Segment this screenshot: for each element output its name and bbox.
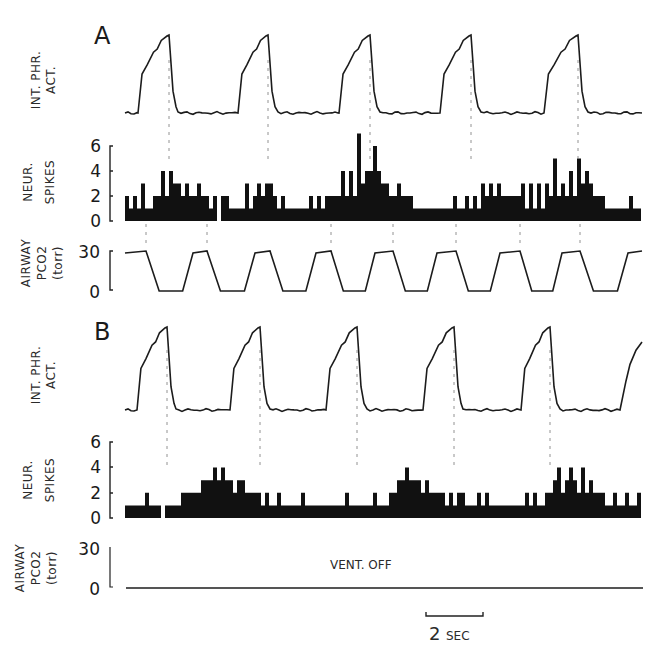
time-scale-bar: 2 SEC [426, 612, 483, 644]
panel-a-phrenic-ylabel: INT. PHR. ACT. [29, 51, 58, 110]
histogram-bars [125, 134, 641, 222]
ylabel-line: INT. PHR. [29, 346, 43, 405]
ylabel-line: ACT. [44, 66, 58, 94]
ylabel-line: NEUR. [21, 460, 35, 500]
tick-label: 2 [90, 186, 101, 206]
panel-a-label: A [94, 22, 111, 50]
tick-label: 0 [90, 508, 101, 528]
panel-a-pco2-ylabel: AIRWAY PCO2 (torr) [19, 239, 65, 288]
scale-bar-unit: SEC [446, 629, 470, 643]
tick-label: 4 [90, 457, 101, 477]
panel-b-phrenic-ylabel: INT. PHR. ACT. [29, 346, 58, 405]
ylabel-line: AIRWAY [13, 544, 27, 593]
pco2-trace-a [125, 251, 642, 291]
scale-bar-value: 2 [429, 623, 440, 644]
panel-a-spikes-ylabel: NEUR. SPIKES [21, 160, 57, 204]
phrenic-trace-a [125, 35, 642, 114]
panel-b-spikes-axis: 6 4 2 0 [90, 432, 113, 528]
spike-histogram-b [125, 468, 641, 518]
tick-label: 6 [90, 136, 101, 156]
histogram-bars [125, 468, 641, 518]
ylabel-line: ACT. [44, 361, 58, 389]
tick-label: 0 [90, 211, 101, 231]
tick-label: 2 [90, 483, 101, 503]
tick-label: 0 [89, 282, 100, 302]
panel-b-pco2-ylabel: AIRWAY PCO2 (torr) [13, 544, 59, 593]
ylabel-line: INT. PHR. [29, 51, 43, 110]
spike-histogram-a [125, 134, 641, 222]
phrenic-trace-b [125, 327, 642, 411]
panel-a-spikes-axis: 6 4 2 0 [90, 136, 113, 231]
ylabel-line: (torr) [51, 246, 65, 280]
ylabel-line: AIRWAY [19, 239, 33, 288]
tick-label: 30 [78, 539, 100, 559]
panel-a-pco2-axis: 30 0 [78, 242, 113, 302]
panel-b-spikes-ylabel: NEUR. SPIKES [21, 458, 57, 502]
tick-label: 4 [90, 161, 101, 181]
tick-label: 30 [78, 242, 100, 262]
ylabel-line: SPIKES [43, 458, 57, 502]
panel-b-label: B [94, 318, 110, 346]
figure: A INT. PHR. ACT. NEUR. SPIKES AIRWAY PCO… [0, 0, 659, 659]
ylabel-line: SPIKES [43, 160, 57, 204]
vent-off-annotation: VENT. OFF [330, 558, 392, 572]
tick-label: 6 [90, 432, 101, 452]
panel-b: B INT. PHR. ACT. NEUR. SPIKES AIRWAY PCO… [13, 318, 643, 599]
ylabel-line: PCO2 [35, 246, 49, 281]
ylabel-line: (torr) [45, 551, 59, 585]
panel-a: A INT. PHR. ACT. NEUR. SPIKES AIRWAY PCO… [19, 22, 642, 302]
ylabel-line: PCO2 [29, 551, 43, 586]
panel-b-pco2-axis: 30 0 [78, 539, 113, 599]
alignment-dashes-b [167, 350, 550, 465]
tick-label: 0 [89, 579, 100, 599]
ylabel-line: NEUR. [21, 162, 35, 202]
